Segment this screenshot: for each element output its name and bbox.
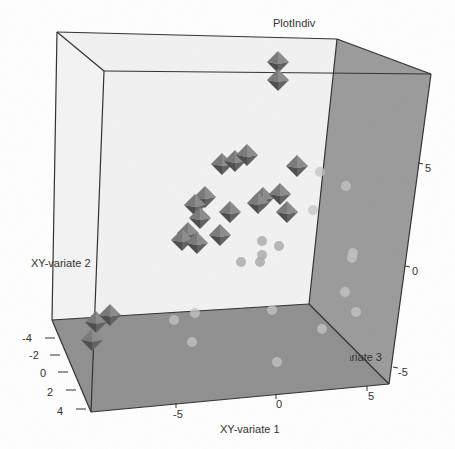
y-tick: 0 bbox=[412, 265, 418, 277]
chart-title: PlotIndiv bbox=[273, 17, 315, 29]
sphere-point bbox=[257, 236, 267, 246]
sphere-point bbox=[274, 241, 284, 251]
x-tick: -5 bbox=[173, 408, 183, 420]
y-tick: -5 bbox=[398, 366, 408, 378]
sphere-point bbox=[317, 324, 327, 334]
z-tick: 0 bbox=[40, 367, 46, 379]
sphere-point bbox=[348, 248, 358, 258]
sphere-point bbox=[267, 305, 277, 315]
x-tick: 5 bbox=[368, 390, 374, 402]
3d-scatter-plot bbox=[0, 0, 455, 449]
z-tick: 2 bbox=[47, 386, 53, 398]
sphere-point bbox=[351, 307, 361, 317]
x-tick: 0 bbox=[276, 398, 282, 410]
z-axis-label: XY-variate 3 bbox=[350, 351, 382, 363]
sphere-point bbox=[169, 315, 179, 325]
z-tick: 4 bbox=[57, 405, 63, 417]
sphere-point bbox=[257, 250, 267, 260]
sphere-point bbox=[190, 308, 200, 318]
sphere-point bbox=[236, 257, 246, 267]
z-axis-label-text: XY-variate 3 bbox=[350, 351, 382, 363]
y-axis-label: XY-variate 2 bbox=[31, 257, 91, 269]
sphere-point bbox=[341, 181, 351, 191]
sphere-point bbox=[187, 337, 197, 347]
x-axis-label: XY-variate 1 bbox=[220, 423, 280, 435]
z-tick: -2 bbox=[29, 349, 39, 361]
sphere-point bbox=[308, 205, 318, 215]
y-tick: 5 bbox=[425, 162, 431, 174]
z-tick: -4 bbox=[22, 332, 32, 344]
sphere-point bbox=[315, 167, 325, 177]
sphere-point bbox=[340, 287, 350, 297]
sphere-point bbox=[272, 357, 282, 367]
